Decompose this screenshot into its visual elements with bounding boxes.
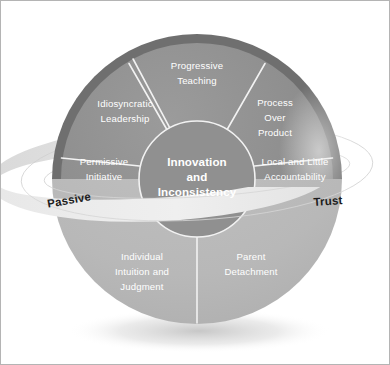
segment-label-line: Intuition and xyxy=(115,266,169,277)
ring-label-trust-text: Trust xyxy=(313,194,343,208)
segment-label-line: Individual xyxy=(121,251,163,262)
segment-label-line: Process xyxy=(257,97,293,108)
core-label-line: Innovation xyxy=(167,155,227,168)
segment-label-line: Local and Little xyxy=(262,156,329,167)
segment-label-line: Judgment xyxy=(120,281,164,292)
segment-label-line: Parent xyxy=(236,251,265,262)
segment-label-line: Teaching xyxy=(177,75,217,86)
sphere-diagram: Progressive Teaching Idiosyncratic Leade… xyxy=(1,1,390,365)
segment-label-line: Detachment xyxy=(224,266,277,277)
image-frame: Progressive Teaching Idiosyncratic Leade… xyxy=(0,0,390,365)
segment-label-line: Product xyxy=(258,127,292,138)
segment-label-line: Leadership xyxy=(101,113,150,124)
segment-individual-intuition-and-judgment[interactable]: Individual Intuition and Judgment xyxy=(115,251,169,292)
core-label-line: and xyxy=(187,170,208,183)
segment-label-line: Progressive xyxy=(171,60,223,71)
diagram-stage: Progressive Teaching Idiosyncratic Leade… xyxy=(1,1,390,365)
segment-label-line: Idiosyncratic xyxy=(97,98,152,109)
segment-label-line: Permissive xyxy=(80,156,128,167)
segment-label-line: Over xyxy=(264,112,286,123)
ring-label-trust: Trust xyxy=(313,194,343,208)
core-label-line: Inconsistency xyxy=(158,185,237,198)
segment-label-line: Initiative xyxy=(86,171,123,182)
segment-label-line: Accountability xyxy=(264,171,325,182)
